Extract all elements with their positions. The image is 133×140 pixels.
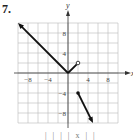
y-tick-label: −4: [59, 90, 67, 98]
y-tick-label: 8: [63, 30, 67, 38]
x-tick-label: 4: [86, 76, 90, 84]
caption: | | | | x | |: [45, 131, 97, 140]
piece-2-open-endpoint: [76, 61, 80, 65]
piece-1-line: [20, 25, 68, 73]
piecewise-graph: xy−8−44884−4−8: [0, 0, 133, 140]
y-tick-label: −8: [59, 110, 67, 118]
piece-3-closed-endpoint: [76, 91, 80, 95]
x-tick-label: 8: [106, 76, 110, 84]
piece-2-line: [68, 64, 77, 73]
y-axis-arrow: [66, 10, 70, 16]
x-tick-label: −4: [44, 76, 52, 84]
y-axis-label: y: [65, 1, 70, 10]
y-tick-label: 4: [63, 50, 67, 58]
x-tick-label: −8: [24, 76, 32, 84]
x-axis-label: x: [130, 69, 133, 78]
piece-3-line: [78, 93, 92, 120]
